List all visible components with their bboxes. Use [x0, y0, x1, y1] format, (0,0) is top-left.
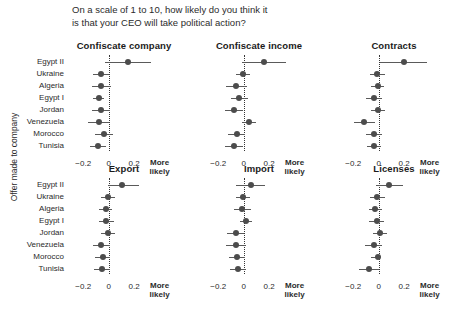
data-point: [366, 266, 372, 272]
y-axis-tick-label: Ukraine: [12, 70, 64, 78]
data-point: [261, 59, 267, 65]
x-axis: −0.200.2More likely: [68, 282, 180, 308]
plot-area: [203, 178, 315, 274]
data-point: [371, 95, 377, 101]
data-point: [233, 83, 239, 89]
x-tick-label: 0: [106, 282, 110, 291]
plot-area: [338, 178, 450, 274]
zero-reference-line: [379, 55, 380, 151]
data-point: [386, 182, 392, 188]
y-axis-tick-label: Tunisia: [12, 142, 64, 150]
x-axis: −0.200.2More likely: [338, 282, 450, 308]
data-point: [377, 230, 383, 236]
zero-reference-line: [244, 55, 245, 151]
data-point: [375, 83, 381, 89]
data-point: [233, 242, 239, 248]
panel-title: Import: [203, 163, 315, 174]
data-point: [119, 182, 125, 188]
data-point: [98, 83, 104, 89]
data-point: [375, 254, 381, 260]
page-title: On a scale of 1 to 10, how likely do you…: [72, 3, 412, 29]
y-axis-tick-label: Jordan: [12, 229, 64, 237]
data-point: [99, 266, 105, 272]
panel-export: Export: [68, 163, 180, 274]
panel-title: Export: [68, 163, 180, 174]
data-point: [95, 143, 101, 149]
data-point: [248, 182, 254, 188]
x-tick-label: −0.2: [75, 282, 91, 291]
x-tick-label: −0.2: [345, 282, 361, 291]
data-point: [233, 230, 239, 236]
data-point: [372, 206, 378, 212]
panel-title: Contracts: [338, 40, 450, 51]
x-tick-label: 0: [376, 282, 380, 291]
zero-reference-line: [244, 178, 245, 274]
data-point: [98, 242, 104, 248]
plot-area: [338, 55, 450, 151]
x-tick-label: 0: [241, 282, 245, 291]
data-point: [101, 131, 107, 137]
data-point: [105, 230, 111, 236]
y-axis-tick-label: Egypt I: [12, 94, 64, 102]
data-point: [240, 71, 246, 77]
y-axis-tick-label: Algeria: [12, 82, 64, 90]
x-tick-label: 0.2: [399, 282, 410, 291]
data-point: [103, 206, 109, 212]
data-point: [375, 107, 381, 113]
zero-reference-line: [109, 55, 110, 151]
plot-area: [203, 55, 315, 151]
data-point: [374, 218, 380, 224]
data-point: [98, 71, 104, 77]
data-point: [125, 59, 131, 65]
x-axis-direction-label: More likely: [150, 282, 170, 299]
y-axis-tick-label: Algeria: [12, 205, 64, 213]
y-axis-category-labels: Egypt IIUkraineAlgeriaEgypt IJordanVenez…: [12, 55, 64, 151]
data-point: [231, 107, 237, 113]
data-point: [98, 107, 104, 113]
data-point: [236, 95, 242, 101]
data-point: [246, 119, 252, 125]
data-point: [243, 218, 249, 224]
panel-title: Licenses: [338, 163, 450, 174]
y-axis-tick-label: Jordan: [12, 106, 64, 114]
x-tick-label: −0.2: [210, 282, 226, 291]
y-axis-tick-label: Morocco: [12, 253, 64, 261]
data-point: [100, 254, 106, 260]
y-axis-tick-label: Venezuela: [12, 241, 64, 249]
y-axis-tick-label: Egypt II: [12, 181, 64, 189]
panel-confiscate-company: Confiscate company: [68, 40, 180, 151]
data-point: [371, 242, 377, 248]
y-axis-tick-label: Morocco: [12, 130, 64, 138]
x-tick-label: 0.2: [264, 282, 275, 291]
y-axis-tick-label: Egypt I: [12, 217, 64, 225]
data-point: [371, 143, 377, 149]
data-point: [234, 254, 240, 260]
data-point: [371, 131, 377, 137]
data-point: [240, 194, 246, 200]
panel-import: Import: [203, 163, 315, 274]
panel-confiscate-income: Confiscate income: [203, 40, 315, 151]
data-point: [231, 143, 237, 149]
data-point: [234, 131, 240, 137]
figure-canvas: On a scale of 1 to 10, how likely do you…: [0, 0, 465, 318]
x-tick-label: 0.2: [129, 282, 140, 291]
plot-area: [68, 178, 180, 274]
plot-area: [68, 55, 180, 151]
panel-title: Confiscate income: [203, 40, 315, 51]
y-axis-tick-label: Ukraine: [12, 193, 64, 201]
panel-licenses: Licenses: [338, 163, 450, 274]
data-point: [105, 194, 111, 200]
panel-title: Confiscate company: [68, 40, 180, 51]
data-point: [361, 119, 367, 125]
x-axis-direction-label: More likely: [420, 282, 440, 299]
x-axis-direction-label: More likely: [285, 282, 305, 299]
y-axis-category-labels: Egypt IIUkraineAlgeriaEgypt IJordanVenez…: [12, 178, 64, 274]
data-point: [235, 266, 241, 272]
zero-reference-line: [109, 178, 110, 274]
data-point: [401, 59, 407, 65]
y-axis-tick-label: Egypt II: [12, 58, 64, 66]
y-axis-tick-label: Venezuela: [12, 118, 64, 126]
y-axis-tick-label: Tunisia: [12, 265, 64, 273]
panel-contracts: Contracts: [338, 40, 450, 151]
data-point: [96, 95, 102, 101]
